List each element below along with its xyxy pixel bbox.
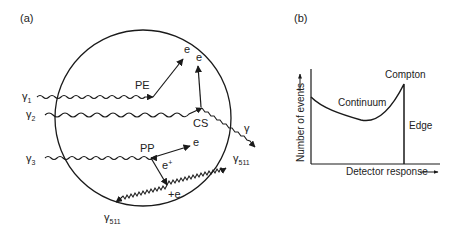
panel-a: (a) γ1 γ2 γ3 PE CS: [20, 12, 255, 225]
pp-positron-label: e+: [162, 159, 172, 171]
cs-electron-label: e: [196, 51, 202, 63]
gamma3-label: γ3: [26, 152, 36, 166]
compton-spectrum-curve: [311, 84, 404, 164]
x-axis-label: Detector response: [346, 166, 428, 177]
pe-electron-label: e: [184, 43, 190, 55]
pe-electron-arrow: [153, 59, 183, 97]
gamma511-left-label: γ511: [104, 211, 121, 225]
y-axis-label: Number of events: [295, 74, 306, 162]
cs-gamma-label: γ: [244, 122, 250, 134]
svg-text:e+: e+: [162, 159, 172, 171]
panel-a-label: (a): [20, 12, 33, 24]
svg-text:γ511: γ511: [104, 211, 121, 225]
cs-label: CS: [193, 117, 208, 129]
annihilation-label: +e: [168, 188, 181, 200]
gamma1-wave: [37, 96, 153, 99]
gamma511-right-wave: [167, 168, 226, 185]
pe-label: PE: [135, 79, 150, 91]
panel-b-label: (b): [294, 12, 307, 24]
svg-text:γ1: γ1: [22, 90, 32, 104]
gamma511-left-wave: [116, 185, 167, 202]
pp-label: PP: [140, 142, 155, 154]
svg-text:Number of events: Number of events: [295, 83, 306, 162]
svg-text:γ511: γ511: [233, 152, 250, 166]
figure-canvas: (a) γ1 γ2 γ3 PE CS: [0, 0, 459, 236]
panel-b: (b) Number of events Detector response C…: [294, 12, 440, 177]
svg-text:γ3: γ3: [26, 152, 36, 166]
compton-label: Compton: [385, 69, 426, 80]
gamma1-label: γ1: [22, 90, 32, 104]
gamma2-wave: [45, 108, 202, 117]
edge-label: Edge: [409, 120, 433, 131]
svg-text:γ2: γ2: [26, 108, 36, 122]
pp-electron-arrow: [151, 146, 190, 158]
cs-electron-arrow: [198, 66, 201, 107]
gamma3-wave: [45, 157, 153, 160]
pp-electron-label: e: [193, 136, 199, 148]
continuum-label: Continuum: [338, 97, 386, 108]
gamma511-right-label: γ511: [233, 152, 250, 166]
gamma2-label: γ2: [26, 108, 36, 122]
